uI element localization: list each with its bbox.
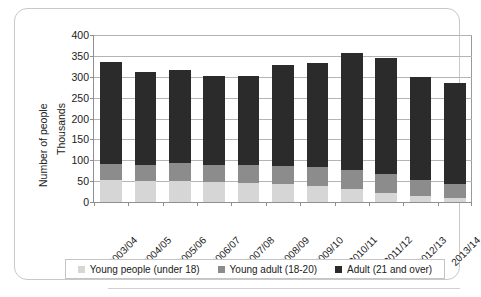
stacked-bar[interactable] [444,83,466,202]
bar-segment[interactable] [169,70,191,164]
y-axis-units-label: Thousands [55,103,67,155]
bar-segment[interactable] [135,72,157,165]
x-tick-mark [403,202,404,206]
y-tick-label: 350 [71,50,89,62]
x-tick-mark [300,202,301,206]
x-tick-mark [197,202,198,206]
bar-segment[interactable] [307,63,329,168]
x-tick-mark [438,202,439,206]
bar-slot: 2004/05 [128,35,162,202]
stacked-bar[interactable] [341,53,363,202]
stacked-bar[interactable] [272,65,294,202]
bar-segment[interactable] [100,62,122,164]
bar-slot: 2005/06 [163,35,197,202]
bar-segment[interactable] [238,183,260,202]
bar-slot: 2012/13 [403,35,437,202]
bar-segment[interactable] [169,181,191,202]
bar-slot: 2011/12 [369,35,403,202]
bar-segment[interactable] [444,184,466,197]
y-tick-label: 150 [71,133,89,145]
bar-segment[interactable] [375,174,397,192]
bar-slot: 2013/14 [438,35,472,202]
x-tick-mark [94,202,95,206]
legend-label: Young adult (18-20) [230,264,317,275]
legend-item[interactable]: Young adult (18-20) [218,264,317,275]
bar-segment[interactable] [169,163,191,181]
bar-segment[interactable] [410,77,432,181]
bar-series-container: 2003/042004/052005/062006/072007/082008/… [94,35,472,202]
chart-legend: Young people (under 18)Young adult (18-2… [65,259,445,279]
bar-segment[interactable] [307,186,329,202]
stacked-bar[interactable] [307,63,329,202]
bar-segment[interactable] [203,165,225,182]
legend-label: Young people (under 18) [90,264,200,275]
legend-swatch [78,266,85,273]
bar-segment[interactable] [272,184,294,202]
x-tick-mark [128,202,129,206]
y-tick-label: 400 [71,29,89,41]
bar-segment[interactable] [444,83,466,184]
stacked-bar[interactable] [203,76,225,202]
y-tick-label: 0 [83,196,89,208]
y-axis-title: Number of people [37,104,49,187]
stacked-bar[interactable] [169,70,191,202]
bar-segment[interactable] [410,180,432,196]
bar-segment[interactable] [203,182,225,202]
legend-swatch [335,266,342,273]
bar-slot: 2009/10 [300,35,334,202]
x-tick-label: 2013/14 [449,235,481,268]
bar-segment[interactable] [410,196,432,202]
y-tick-label: 300 [71,71,89,83]
bar-segment[interactable] [375,58,397,174]
x-tick-mark [369,202,370,206]
bar-segment[interactable] [238,165,260,183]
stacked-bar[interactable] [100,62,122,202]
chart-figure-frame: Number of people Thousands 4003503002502… [14,8,460,280]
bar-segment[interactable] [375,193,397,202]
stacked-bar[interactable] [238,76,260,203]
bar-segment[interactable] [238,76,260,166]
bar-segment[interactable] [307,167,329,186]
x-tick-mark [335,202,336,206]
y-tick-label: 200 [71,113,89,125]
bar-slot: 2007/08 [231,35,265,202]
x-tick-mark [163,202,164,206]
y-tick-label: 50 [77,175,89,187]
stacked-bar[interactable] [135,72,157,202]
plot-area: 400350300250200150100500 2003/042004/052… [93,35,472,203]
stacked-bar[interactable] [410,77,432,202]
bar-segment[interactable] [341,170,363,189]
bar-segment[interactable] [100,180,122,202]
bar-slot: 2003/04 [94,35,128,202]
bar-slot: 2010/11 [335,35,369,202]
bar-segment[interactable] [341,53,363,171]
bar-segment[interactable] [100,164,122,180]
stacked-bar[interactable] [375,58,397,202]
bar-segment[interactable] [135,165,157,181]
x-tick-mark [231,202,232,206]
bar-segment[interactable] [203,76,225,165]
legend-item[interactable]: Young people (under 18) [78,264,200,275]
bar-segment[interactable] [272,166,294,185]
bar-segment[interactable] [444,198,466,202]
x-tick-mark [471,202,472,206]
y-tick-label: 250 [71,92,89,104]
legend-item[interactable]: Adult (21 and over) [335,264,432,275]
legend-label: Adult (21 and over) [347,264,432,275]
legend-swatch [218,266,225,273]
bar-segment[interactable] [272,65,294,166]
bar-segment[interactable] [341,189,363,202]
bar-slot: 2006/07 [197,35,231,202]
bar-segment[interactable] [135,181,157,202]
y-tick-label: 100 [71,154,89,166]
x-tick-mark [266,202,267,206]
bar-slot: 2008/09 [266,35,300,202]
page-rule-artifact [108,288,460,289]
